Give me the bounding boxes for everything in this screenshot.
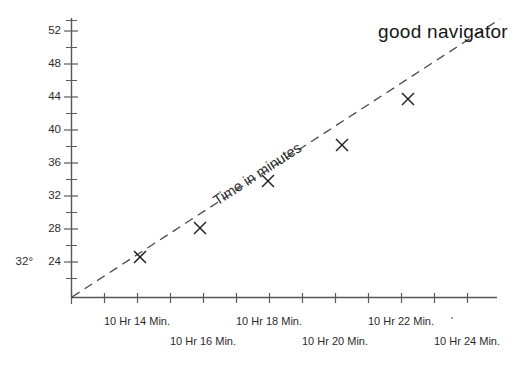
chart-title: good navigator <box>378 21 508 42</box>
origin-degree-label: 32° <box>16 255 33 267</box>
series-label: Time in minutes <box>210 139 304 208</box>
y-tick-label-36: 36 <box>48 156 61 168</box>
x-tick-label-10hr16: 10 Hr 16 Min. <box>170 335 236 347</box>
y-tick-label-52: 52 <box>48 24 61 36</box>
data-point-2 <box>194 222 206 234</box>
data-point-4 <box>336 139 348 151</box>
x-tick-label-10hr22: 10 Hr 22 Min. <box>368 315 434 327</box>
y-tick-label-28: 28 <box>48 222 61 234</box>
x-tick-label-10hr24: 10 Hr 24 Min. <box>434 335 500 347</box>
x-tick-label-10hr14: 10 Hr 14 Min. <box>104 315 170 327</box>
y-tick-label-48: 48 <box>48 57 61 69</box>
scan-speck <box>451 317 453 319</box>
x-tick-label-10hr18: 10 Hr 18 Min. <box>236 315 302 327</box>
y-axis-tick-labels: 24 28 32 36 40 44 48 52 <box>48 24 61 267</box>
y-tick-label-44: 44 <box>48 90 61 102</box>
x-axis-tick-labels: 10 Hr 14 Min. 10 Hr 16 Min. 10 Hr 18 Min… <box>104 315 500 347</box>
x-tick-label-10hr20: 10 Hr 20 Min. <box>302 335 368 347</box>
y-tick-label-40: 40 <box>48 123 61 135</box>
scatter-plot: 24 28 32 36 40 44 48 52 32° <box>0 0 524 366</box>
y-tick-label-32: 32 <box>48 189 61 201</box>
data-point-5 <box>402 93 414 105</box>
chart-container: 24 28 32 36 40 44 48 52 32° <box>0 0 524 366</box>
data-point-markers <box>134 93 414 263</box>
y-tick-label-24: 24 <box>48 255 61 267</box>
